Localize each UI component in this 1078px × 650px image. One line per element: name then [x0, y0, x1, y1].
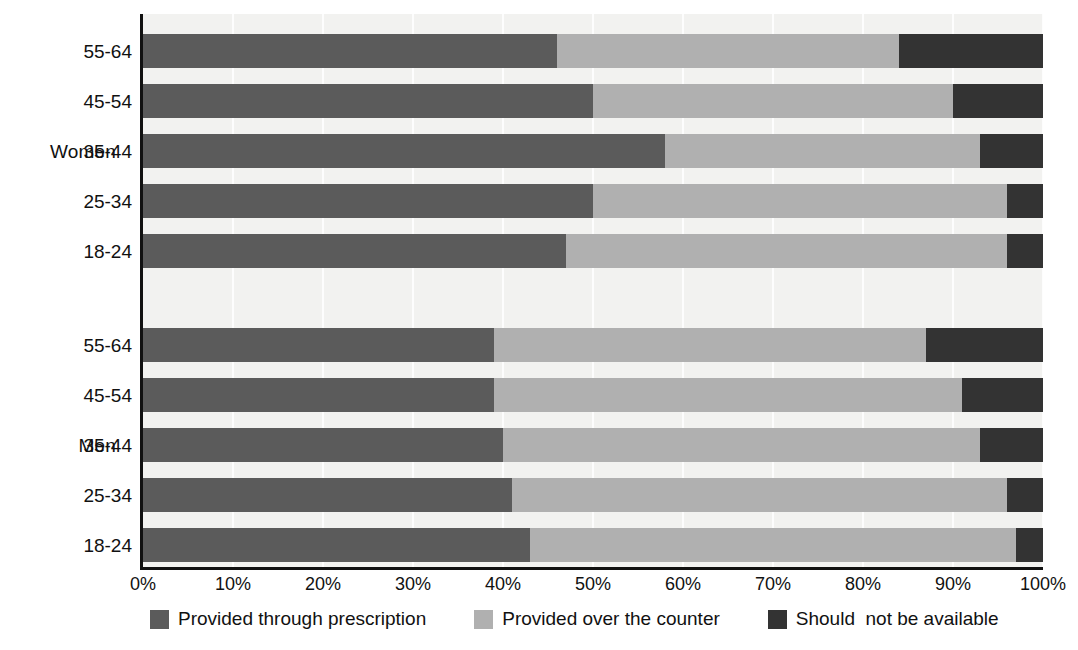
- category-label-women-55-64: 55-64: [56, 41, 132, 63]
- bar-women-25-34: [143, 184, 1043, 218]
- bar-women-55-64: [143, 34, 1043, 68]
- bar-women-45-54: [143, 84, 1043, 118]
- chart-legend: Provided through prescriptionProvided ov…: [150, 608, 999, 630]
- group-label-men: Men: [8, 435, 116, 457]
- legend-label: Provided through prescription: [178, 608, 426, 630]
- bar-men-35-44: [143, 428, 1043, 462]
- group-label-women: Women: [8, 141, 116, 163]
- stacked-bar-chart: 55-6445-5435-4425-3418-2455-6445-5435-44…: [0, 0, 1078, 650]
- legend-swatch-counter-icon: [474, 610, 493, 629]
- category-label-women-18-24: 18-24: [56, 241, 132, 263]
- x-tick-label-90: 90%: [918, 574, 988, 595]
- legend-label: Should not be available: [796, 608, 999, 630]
- bar-men-25-34: [143, 478, 1043, 512]
- bar-segment-prescription: [143, 428, 503, 462]
- category-label-men-45-54: 45-54: [56, 385, 132, 407]
- legend-item-2[interactable]: Provided over the counter: [474, 608, 720, 630]
- bar-segment-not-available: [980, 428, 1043, 462]
- x-tick-label-0: 0%: [108, 574, 178, 595]
- bar-segment-prescription: [143, 134, 665, 168]
- x-tick-label-10: 10%: [198, 574, 268, 595]
- bar-segment-counter: [557, 34, 899, 68]
- x-tick-label-100: 100%: [1008, 574, 1078, 595]
- bar-segment-prescription: [143, 184, 593, 218]
- legend-swatch-prescription-icon: [150, 610, 169, 629]
- bar-segment-prescription: [143, 378, 494, 412]
- bar-segment-counter: [503, 428, 980, 462]
- bar-segment-not-available: [1007, 184, 1043, 218]
- legend-label: Provided over the counter: [502, 608, 720, 630]
- bar-segment-counter: [593, 84, 953, 118]
- bar-segment-counter: [494, 328, 926, 362]
- category-label-women-25-34: 25-34: [56, 191, 132, 213]
- x-axis-line: [140, 567, 1043, 570]
- bar-segment-prescription: [143, 528, 530, 562]
- bar-women-18-24: [143, 234, 1043, 268]
- bar-segment-counter: [593, 184, 1007, 218]
- bar-segment-not-available: [980, 134, 1043, 168]
- bar-segment-counter: [566, 234, 1007, 268]
- x-tick-label-60: 60%: [648, 574, 718, 595]
- bar-segment-prescription: [143, 34, 557, 68]
- bar-segment-prescription: [143, 478, 512, 512]
- bar-women-35-44: [143, 134, 1043, 168]
- x-tick-label-80: 80%: [828, 574, 898, 595]
- category-label-men-55-64: 55-64: [56, 335, 132, 357]
- category-label-men-25-34: 25-34: [56, 485, 132, 507]
- bar-men-55-64: [143, 328, 1043, 362]
- legend-item-1[interactable]: Provided through prescription: [150, 608, 426, 630]
- bar-segment-not-available: [926, 328, 1043, 362]
- bar-segment-not-available: [1016, 528, 1043, 562]
- bar-segment-counter: [494, 378, 962, 412]
- bar-segment-not-available: [1007, 234, 1043, 268]
- x-tick-label-30: 30%: [378, 574, 448, 595]
- legend-swatch-notavailable-icon: [768, 610, 787, 629]
- category-label-women-45-54: 45-54: [56, 91, 132, 113]
- x-tick-label-50: 50%: [558, 574, 628, 595]
- bar-segment-prescription: [143, 234, 566, 268]
- legend-spacer: [426, 619, 474, 620]
- legend-item-3[interactable]: Should not be available: [768, 608, 999, 630]
- bar-segment-not-available: [1007, 478, 1043, 512]
- bar-segment-counter: [665, 134, 980, 168]
- x-tick-label-40: 40%: [468, 574, 538, 595]
- legend-spacer: [720, 619, 768, 620]
- bar-segment-counter: [512, 478, 1007, 512]
- bar-segment-not-available: [953, 84, 1043, 118]
- bar-segment-counter: [530, 528, 1016, 562]
- x-tick-label-70: 70%: [738, 574, 808, 595]
- bar-segment-prescription: [143, 84, 593, 118]
- bar-men-18-24: [143, 528, 1043, 562]
- category-label-men-18-24: 18-24: [56, 535, 132, 557]
- bar-segment-prescription: [143, 328, 494, 362]
- bar-segment-not-available: [962, 378, 1043, 412]
- x-tick-label-20: 20%: [288, 574, 358, 595]
- bar-men-45-54: [143, 378, 1043, 412]
- bar-segment-not-available: [899, 34, 1043, 68]
